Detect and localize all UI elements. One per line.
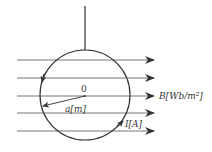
current-direction-arrow-right <box>117 121 123 127</box>
current-label: I[A] <box>124 119 143 129</box>
field-label: B[Wb/m²] <box>158 91 203 101</box>
center-point <box>84 95 86 97</box>
current-loop <box>40 50 130 140</box>
radius-label: a[m] <box>65 104 86 114</box>
diagram-canvas: 0 a[m] B[Wb/m²] I[A] <box>0 0 212 152</box>
center-label: 0 <box>81 84 87 94</box>
